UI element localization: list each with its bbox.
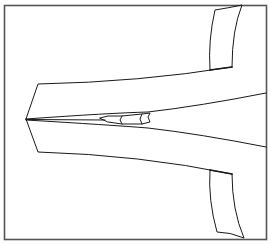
lower-tab-seam	[210, 170, 232, 174]
upper-tab	[210, 5, 242, 70]
upper-tab-seam	[210, 67, 232, 70]
lower-arm-inner-edge	[26, 120, 266, 147]
figure-frame	[5, 6, 267, 240]
center-joint-detail	[100, 113, 150, 124]
lower-tab	[210, 170, 244, 238]
line-drawing	[0, 0, 271, 244]
upper-arm-outer-edge	[26, 67, 232, 119]
lower-arm-outer-edge	[26, 119, 232, 174]
upper-arm-inner-edge	[26, 93, 266, 119]
center-fold-line	[26, 120, 105, 121]
